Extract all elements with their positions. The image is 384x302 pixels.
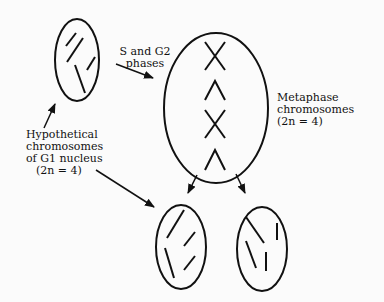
chromosome xyxy=(87,57,95,70)
g1-nucleus xyxy=(55,19,99,101)
g1-label-line4: (2n = 4) xyxy=(26,165,103,177)
phases-label: S and G2 phases xyxy=(114,46,176,70)
arrow-g1-to-daughter xyxy=(96,170,154,207)
metaphase-cell xyxy=(164,33,268,183)
arrow-to-left-daughter xyxy=(188,175,197,193)
daughter-cell-left xyxy=(156,205,206,289)
chromosome-caret xyxy=(205,81,225,100)
g1-label: Hypothetical chromosomes of G1 nucleus (… xyxy=(26,129,103,177)
arrow-to-right-daughter xyxy=(236,174,245,193)
chromosome-caret xyxy=(205,150,225,170)
phases-label-line2: phases xyxy=(114,58,176,70)
arrow-g1-label xyxy=(44,104,55,128)
metaphase-label-line3: (2n = 4) xyxy=(277,116,354,128)
chromosome xyxy=(75,65,85,93)
metaphase-label: Metaphase chromosomes (2n = 4) xyxy=(277,92,354,128)
chromosome xyxy=(66,33,76,46)
daughter-cell-right xyxy=(237,207,287,291)
